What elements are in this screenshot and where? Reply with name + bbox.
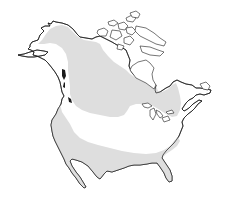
north-america-map <box>0 0 225 199</box>
range-map <box>0 0 225 199</box>
